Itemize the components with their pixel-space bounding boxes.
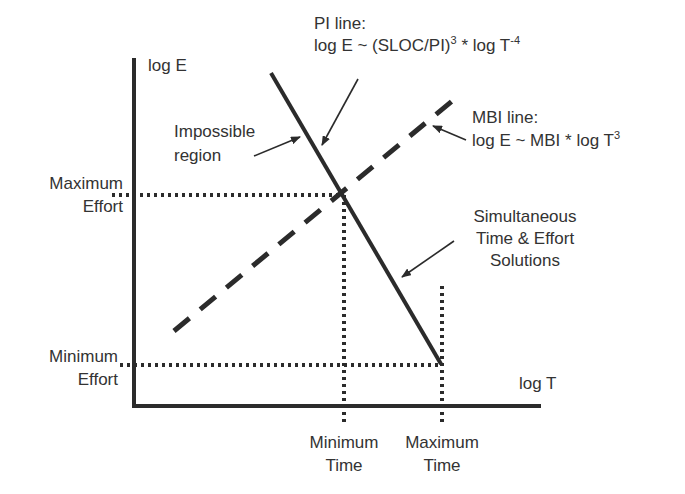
max-effort-label-2: Effort [0,196,123,217]
simultaneous-label-2: Time & Effort [450,228,600,249]
impossible-region-arrow [254,137,300,156]
max-time-label-1: Maximum [382,432,502,453]
min-effort-label-1: Minimum [0,346,118,367]
simultaneous-label-1: Simultaneous [450,206,600,227]
max-effort-label-1: Maximum [0,173,123,194]
impossible-region-label-1: Impossible [174,121,255,142]
pi-line-arrow [322,79,358,145]
simultaneous-solutions-arrow [402,241,454,277]
mbi-line-arrow [433,126,466,140]
pi-line-formula: log E ~ (SLOC/PI)3 * log T-4 [314,35,520,56]
y-axis-label: log E [148,55,187,76]
pi-line-title: PI line: [314,13,366,34]
mbi-line-formula: log E ~ MBI * log T3 [472,130,620,151]
max-time-label-2: Time [382,455,502,476]
impossible-region-label-2: region [174,145,221,166]
simultaneous-label-3: Solutions [450,250,600,271]
mbi-line-title: MBI line: [472,107,538,128]
pi-line [271,73,441,364]
min-effort-label-2: Effort [0,369,118,390]
x-axis-label: log T [519,373,557,394]
